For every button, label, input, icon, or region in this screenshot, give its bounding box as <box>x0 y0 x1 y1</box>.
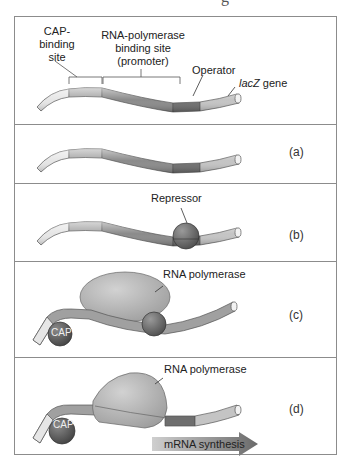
repressor-protein <box>173 223 199 249</box>
repressor-protein-c <box>142 312 166 336</box>
lacz-italic: lacZ <box>239 77 260 89</box>
cap-label-d: CAP <box>53 418 74 431</box>
clipped-figure-title: g <box>150 0 300 6</box>
cap-site-bracket <box>69 77 102 84</box>
gene-word: gene <box>260 77 288 89</box>
cap-label-line-2: binding <box>27 38 87 51</box>
panel-c: RNA polymerase CAP (c) <box>15 262 336 358</box>
promoter-bracket <box>103 77 180 84</box>
panel-label-d: (d) <box>289 402 304 416</box>
cap-binding-site-label: CAP- binding site <box>27 25 87 64</box>
rna-polymerase-protein-d <box>93 373 167 428</box>
operator-label: Operator <box>192 64 235 77</box>
panel-label-b: (b) <box>289 228 304 242</box>
panel-label-a: (a) <box>289 145 304 159</box>
promoter-label-line-1: RNA-polymerase <box>101 29 185 42</box>
mrna-synthesis-label: mRNA synthesis <box>164 438 245 450</box>
lacz-gene-label: lacZ gene <box>239 77 287 90</box>
promoter-label-line-3: (promoter) <box>101 55 185 68</box>
panel-d: RNA polymerase CAP (d) mRNA synthesis <box>15 358 336 456</box>
figure-frame: CAP- binding site RNA-polymerase binding… <box>14 16 337 455</box>
panel-b: Repressor (b) <box>15 184 336 262</box>
panel-label-c: (c) <box>289 308 303 322</box>
panel-overview: CAP- binding site RNA-polymerase binding… <box>15 17 336 125</box>
repressor-label: Repressor <box>151 192 202 205</box>
cap-label-line-3: site <box>27 51 87 64</box>
panel-a: (a) <box>15 125 336 184</box>
promoter-label: RNA-polymerase binding site (promoter) <box>101 29 185 68</box>
cap-label-c: CAP <box>51 326 72 339</box>
cap-label-line-1: CAP- <box>27 25 87 38</box>
promoter-label-line-2: binding site <box>101 42 185 55</box>
rna-polymerase-label-d: RNA polymerase <box>164 363 247 376</box>
rna-polymerase-label-c: RNA polymerase <box>163 268 246 281</box>
